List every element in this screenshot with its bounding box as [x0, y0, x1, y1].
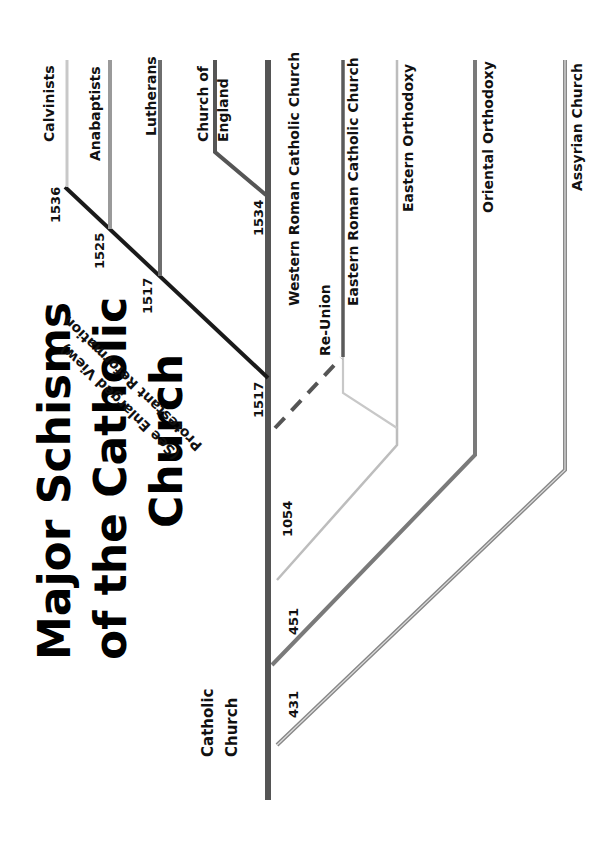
label-eastern-orthodoxy: Eastern Orthodoxy	[400, 64, 416, 212]
date-431: 431	[286, 691, 301, 718]
schism-tree-diagram: Major Schisms of the Catholic Church Cat…	[0, 0, 600, 864]
page-title: Major Schisms of the Catholic Church	[29, 297, 192, 660]
label-lutherans: Lutherans	[143, 56, 159, 136]
branch-assyrian	[277, 60, 565, 745]
root-label-line-2: Church	[223, 698, 241, 757]
date-1054: 1054	[280, 501, 295, 537]
date-1517-main: 1517	[251, 382, 266, 418]
coe-line-2: England	[215, 78, 231, 142]
root-label: Catholic Church	[199, 689, 241, 757]
root-label-line-1: Catholic	[199, 689, 217, 757]
date-1525: 1525	[92, 233, 107, 269]
label-oriental-orthodoxy: Oriental Orthodoxy	[480, 61, 496, 213]
reunion-dashed-line	[275, 358, 341, 428]
label-calvinists: Calvinists	[41, 65, 57, 142]
date-1536: 1536	[48, 187, 63, 223]
label-eastern-rc: Eastern Roman Catholic Church	[345, 57, 361, 306]
label-reunion: Re-Union	[317, 284, 333, 356]
coe-line-1: Church of	[195, 65, 211, 142]
date-1517-lutherans: 1517	[140, 278, 155, 314]
branch-oriental-orthodoxy	[272, 60, 475, 665]
label-assyrian: Assyrian Church	[569, 63, 585, 191]
date-1534: 1534	[251, 200, 266, 236]
label-anabaptists: Anabaptists	[87, 66, 103, 161]
date-451: 451	[286, 608, 301, 635]
label-western-rc: Western Roman Catholic Church	[286, 52, 302, 306]
